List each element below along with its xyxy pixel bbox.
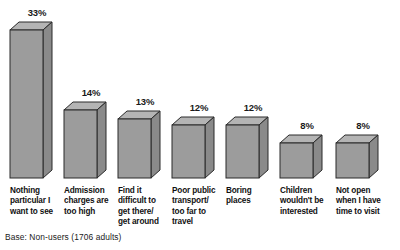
bar-category-label: Nothing particular I want to see	[10, 186, 63, 217]
bar-shape	[64, 102, 106, 186]
bar-value-label: 13%	[122, 97, 168, 107]
chart-footnote: Base: Non-users (1706 adults)	[5, 232, 122, 242]
bar-column: 14% Admission charges are too high	[60, 0, 114, 250]
bar-value-label: 33%	[14, 8, 60, 18]
bar-column: 12% Poor public transport/ too far to tr…	[168, 0, 222, 250]
bar-shape	[336, 135, 378, 186]
bar-value-label: 8%	[284, 121, 330, 131]
bar-3d-icon	[172, 117, 214, 186]
bar-column: 33% Nothing particular I want to see	[6, 0, 60, 250]
bar-shape	[226, 117, 268, 186]
bar-column: 12% Boring places	[222, 0, 276, 250]
bar-category-label: Find it difficult to get there/ get arou…	[118, 186, 171, 228]
bar-column: 8% Children wouldn't be interested	[276, 0, 330, 250]
bar-3d-icon	[336, 135, 378, 186]
bar-shape	[172, 117, 214, 186]
bar-category-label: Admission charges are too high	[64, 186, 117, 217]
bar-category-label: Not open when I have time to visit	[336, 186, 389, 217]
bar-value-label: 12%	[176, 103, 222, 113]
bar-value-label: 14%	[68, 88, 114, 98]
bar-chart: 33% Nothing particular I want to see 14%…	[0, 0, 400, 250]
bar-value-label: 8%	[340, 121, 386, 131]
bar-value-label: 12%	[230, 103, 276, 113]
bar-category-label: Poor public transport/ too far to travel	[172, 186, 225, 228]
bar-column: 13% Find it difficult to get there/ get …	[114, 0, 168, 250]
bar-shape	[10, 22, 52, 186]
bar-3d-icon	[280, 135, 322, 186]
bar-column: 8% Not open when I have time to visit	[332, 0, 386, 250]
bar-3d-icon	[118, 111, 160, 186]
bar-3d-icon	[226, 117, 268, 186]
bar-category-label: Boring places	[226, 186, 279, 207]
bar-shape	[118, 111, 160, 186]
bar-category-label: Children wouldn't be interested	[280, 186, 333, 217]
bar-shape	[280, 135, 322, 186]
bar-3d-icon	[64, 102, 106, 186]
bar-3d-icon	[10, 22, 52, 186]
